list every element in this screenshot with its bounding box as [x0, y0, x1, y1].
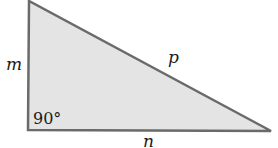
side-label-p: p: [168, 47, 179, 67]
side-label-m: m: [6, 54, 22, 74]
right-triangle-diagram: m p n 90°: [0, 0, 278, 148]
triangle-shape: [28, 1, 271, 131]
right-angle-label: 90°: [33, 109, 61, 128]
side-label-n: n: [143, 131, 154, 148]
